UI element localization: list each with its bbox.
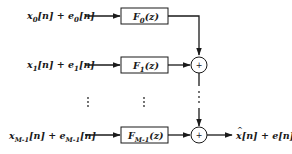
ellipsis-inputs	[87, 97, 89, 107]
output-label: x[n] + e[n]	[235, 130, 292, 141]
ellipsis-filters	[143, 97, 145, 107]
svg-text:+: +	[196, 131, 203, 140]
input-label-1: x1[n] + e1[n]	[26, 59, 95, 73]
input-label-M-1: xM-1[n] + eM-1[n]	[8, 130, 96, 144]
filter-bank-diagram: x0[n] + e0[n] F0(z) x1[n] + e1[n] F1(z) …	[0, 0, 292, 154]
connector-F0-to-adder1	[168, 16, 199, 55]
adder-1: +	[191, 57, 207, 73]
ellipsis-adders	[198, 91, 200, 103]
svg-text:+: +	[196, 61, 203, 70]
adder-2: +	[191, 127, 207, 143]
input-label-0: x0[n] + e0[n]	[26, 10, 95, 24]
